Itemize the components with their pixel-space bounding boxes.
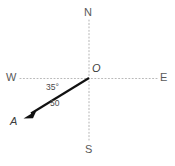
compass-label-west: W — [6, 72, 16, 83]
magnitude-measure-label: 50 — [50, 99, 59, 108]
angle-measure-label: 35° — [46, 83, 59, 92]
vector-compass-diagram: N S W E O A 35° 50 — [0, 0, 175, 166]
compass-label-east: E — [160, 72, 167, 83]
point-label-a: A — [10, 116, 17, 127]
compass-label-south: S — [85, 144, 92, 155]
diagram-canvas — [0, 0, 175, 166]
point-label-origin: O — [92, 63, 101, 74]
vector-oa-shaft — [31, 78, 89, 114]
compass-label-north: N — [84, 7, 92, 18]
